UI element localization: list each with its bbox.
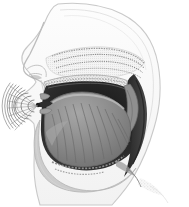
tongue bbox=[44, 92, 130, 167]
anatomy-figure: Mid-sagittal section of the human head V… bbox=[0, 0, 189, 207]
sagittal-head-illustration bbox=[0, 0, 189, 207]
